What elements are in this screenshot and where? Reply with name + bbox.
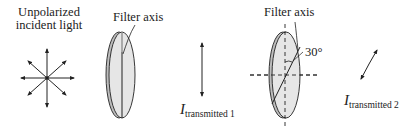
filter-1-axis-label: Filter axis (113, 11, 163, 24)
unpolarized-light-star-icon (21, 49, 74, 107)
incident-light-label: Unpolarized incident light (14, 6, 84, 32)
filter-2-axis-label: Filter axis (264, 6, 314, 19)
transmitted-2-subscript: transmitted 2 (349, 100, 399, 110)
filter-2-polarizer (250, 22, 320, 126)
filter-1-polarizer (106, 25, 135, 118)
transmitted-2-arrow-icon (361, 50, 377, 79)
transmitted-1-label: Itransmitted 1 (180, 103, 235, 121)
transmitted-2-label: Itransmitted 2 (344, 94, 399, 112)
angle-label: 30° (305, 46, 323, 59)
transmitted-1-subscript: transmitted 1 (185, 109, 235, 119)
incident-label-line2: incident light (14, 19, 84, 32)
